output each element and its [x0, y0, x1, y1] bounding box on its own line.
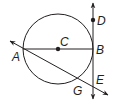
- label-g: G: [73, 84, 82, 98]
- label-a: A: [11, 50, 20, 64]
- label-e: E: [96, 73, 105, 87]
- label-c: C: [60, 35, 69, 49]
- point-d-dot: [91, 18, 95, 22]
- diagram-canvas: A B C D E G: [0, 0, 116, 108]
- geometry-diagram: A B C D E G: [0, 0, 116, 108]
- label-d: D: [97, 14, 106, 28]
- label-b: B: [96, 43, 104, 57]
